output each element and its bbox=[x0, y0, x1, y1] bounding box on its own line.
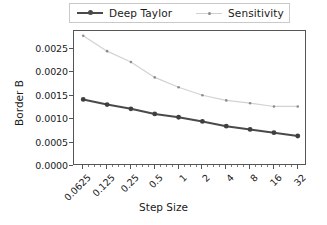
data-point bbox=[273, 105, 276, 108]
plot-svg bbox=[74, 31, 307, 166]
data-point bbox=[224, 124, 229, 129]
data-point bbox=[153, 76, 156, 79]
sensitivity-markers bbox=[82, 34, 299, 107]
series-deep-taylor bbox=[81, 97, 300, 138]
x-tick-mark-3 bbox=[154, 165, 155, 169]
series-sensitivity bbox=[82, 34, 299, 107]
x-tick-mark-5 bbox=[201, 165, 202, 169]
x-tick-mark-2 bbox=[130, 165, 131, 169]
x-tick-minor bbox=[237, 165, 238, 167]
x-tick-minor bbox=[100, 165, 101, 167]
x-tick-mark-1 bbox=[106, 165, 107, 169]
x-tick-minor bbox=[190, 165, 191, 167]
data-point bbox=[272, 130, 277, 135]
x-tick-minor bbox=[213, 165, 214, 167]
x-tick-minor bbox=[243, 165, 244, 167]
x-tick-minor bbox=[166, 165, 167, 167]
data-point bbox=[129, 106, 134, 111]
legend-entry-deep-taylor[interactable]: Deep Taylor bbox=[77, 4, 172, 22]
data-point bbox=[200, 119, 205, 124]
x-tick-minor bbox=[291, 165, 292, 167]
data-point bbox=[248, 127, 253, 132]
data-point bbox=[225, 99, 228, 102]
y-tick-mark-0 bbox=[69, 165, 73, 166]
data-point bbox=[106, 50, 109, 53]
x-tick-minor bbox=[219, 165, 220, 167]
x-tick-mark-6 bbox=[225, 165, 226, 169]
x-tick-minor bbox=[94, 165, 95, 167]
y-axis-label: Border B bbox=[13, 63, 25, 143]
x-tick-minor bbox=[118, 165, 119, 167]
x-tick-minor bbox=[124, 165, 125, 167]
legend-swatch-sensitivity-icon bbox=[196, 8, 222, 18]
x-tick-minor bbox=[255, 165, 256, 167]
x-tick-mark-7 bbox=[249, 165, 250, 169]
data-point bbox=[249, 102, 252, 105]
data-point bbox=[81, 97, 86, 102]
data-point bbox=[201, 94, 204, 97]
x-tick-minor bbox=[261, 165, 262, 167]
x-tick-minor bbox=[136, 165, 137, 167]
x-tick-minor bbox=[172, 165, 173, 167]
y-tick-label-3: 0.0015 bbox=[35, 89, 68, 100]
legend-entry-sensitivity[interactable]: Sensitivity bbox=[196, 4, 284, 22]
x-tick-minor bbox=[279, 165, 280, 167]
x-tick-mark-0 bbox=[82, 165, 83, 169]
sensitivity-line bbox=[83, 36, 298, 107]
data-point bbox=[177, 86, 180, 89]
legend-swatch-deep-taylor-icon bbox=[77, 8, 103, 18]
chart-legend: Deep Taylor Sensitivity bbox=[69, 3, 290, 23]
x-tick-minor bbox=[184, 165, 185, 167]
x-tick-minor bbox=[160, 165, 161, 167]
chart-figure: Deep Taylor Sensitivity 0.0000 0.0005 0.… bbox=[0, 0, 327, 225]
data-point bbox=[176, 115, 181, 120]
x-tick-mark-4 bbox=[178, 165, 179, 169]
x-tick-minor bbox=[88, 165, 89, 167]
x-tick-mark-9 bbox=[297, 165, 298, 169]
y-tick-label-2: 0.0010 bbox=[35, 113, 68, 124]
x-axis-label: Step Size bbox=[0, 201, 327, 213]
data-point bbox=[296, 105, 299, 108]
x-tick-minor bbox=[148, 165, 149, 167]
y-tick-label-4: 0.0020 bbox=[35, 66, 68, 77]
x-tick-mark-8 bbox=[273, 165, 274, 169]
plot-area bbox=[73, 30, 306, 165]
legend-label-sensitivity: Sensitivity bbox=[228, 7, 284, 19]
x-tick-minor bbox=[267, 165, 268, 167]
y-tick-label-5: 0.0025 bbox=[35, 42, 68, 53]
data-point bbox=[105, 102, 110, 107]
data-point bbox=[152, 112, 157, 117]
data-point bbox=[82, 34, 85, 37]
x-tick-minor bbox=[231, 165, 232, 167]
x-tick-minor bbox=[196, 165, 197, 167]
data-point bbox=[295, 134, 300, 139]
x-tick-minor bbox=[142, 165, 143, 167]
legend-label-deep-taylor: Deep Taylor bbox=[109, 7, 172, 19]
x-tick-minor bbox=[112, 165, 113, 167]
x-tick-minor bbox=[207, 165, 208, 167]
x-tick-minor bbox=[285, 165, 286, 167]
y-tick-label-0: 0.0000 bbox=[35, 160, 68, 171]
data-point bbox=[130, 61, 133, 64]
y-tick-label-1: 0.0005 bbox=[35, 136, 68, 147]
